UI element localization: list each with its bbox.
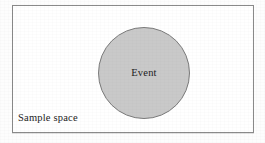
venn-diagram-canvas: Event Sample space — [0, 0, 265, 143]
sample-space-label: Sample space — [18, 113, 78, 124]
event-label: Event — [131, 68, 157, 79]
event-circle: Event — [98, 27, 190, 119]
